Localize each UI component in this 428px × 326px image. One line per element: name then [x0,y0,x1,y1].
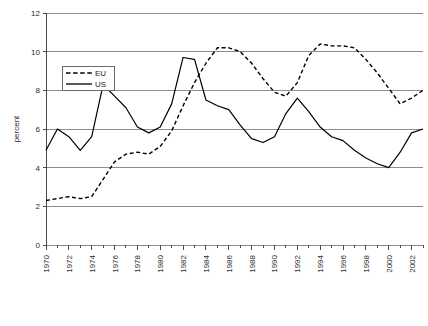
y-tick-label: 6 [36,125,41,134]
x-tick-label: 1970 [42,254,51,272]
x-tick-label: 1994 [316,254,325,272]
x-tick-label: 1996 [339,254,348,272]
x-tick-label: 1980 [156,254,165,272]
y-tick-label: 8 [36,86,41,95]
y-tick-label: 4 [36,164,41,173]
y-axis-title: percent [12,115,21,142]
x-tick-label: 2000 [385,254,394,272]
y-tick-label: 10 [31,48,40,57]
x-tick-label: 1972 [65,254,74,272]
x-tick-label: 1986 [225,254,234,272]
x-tick-label: 1990 [270,254,279,272]
x-tick-label: 1998 [362,254,371,272]
x-tick-label: 1992 [293,254,302,272]
y-tick-label: 2 [36,202,41,211]
x-tick-label: 1988 [248,254,257,272]
chart-container: 024681012percent197019721974197619781980… [0,0,428,326]
legend-box [62,66,114,90]
y-tick-label: 0 [36,241,41,250]
x-tick-label: 1982 [179,254,188,272]
line-chart: 024681012percent197019721974197619781980… [0,0,428,326]
x-tick-label: 2002 [408,254,417,272]
x-tick-label: 1984 [202,254,211,272]
x-tick-label: 1978 [133,254,142,272]
y-tick-label: 12 [31,9,40,18]
legend-label-eu: EU [95,69,106,78]
x-tick-label: 1974 [88,254,97,272]
x-tick-label: 1976 [111,254,120,272]
legend-label-us: US [95,80,106,89]
